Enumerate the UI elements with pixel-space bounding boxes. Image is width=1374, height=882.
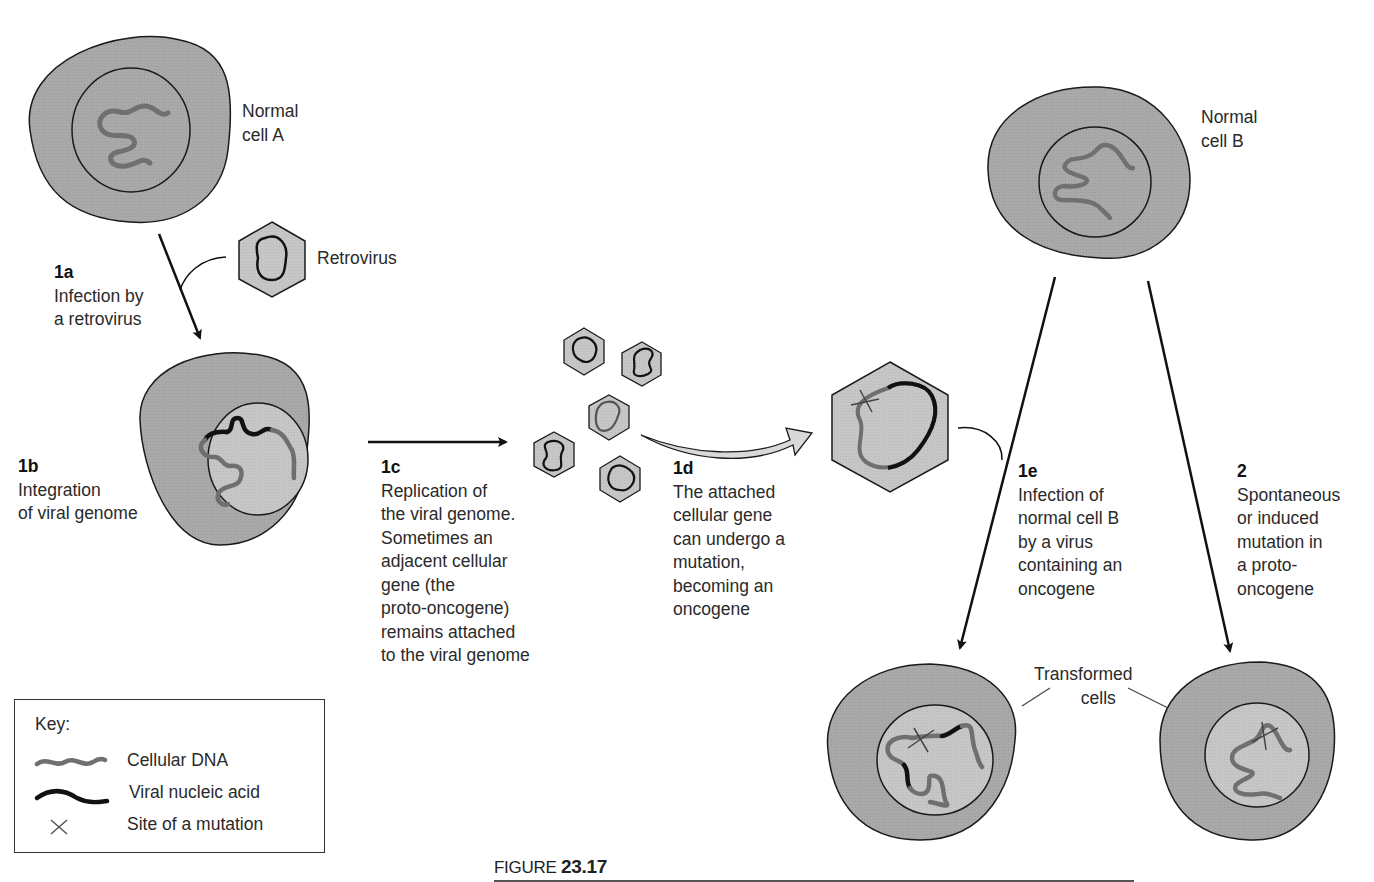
virus-with-oncogene	[832, 362, 948, 492]
transformed-cell-mutation	[1160, 662, 1335, 840]
transformed-cells-label: Transformed cells	[1034, 663, 1133, 710]
normal-cell-a-label: Normal cell A	[242, 100, 298, 147]
step-1b-label: 1bIntegration of viral genome	[18, 455, 138, 526]
step-1d-label: 1dThe attached cellular gene can undergo…	[673, 457, 785, 622]
transformed-cell-viral	[827, 664, 1015, 840]
step-1c-label: 1cReplication of the viral genome. Somet…	[381, 456, 530, 668]
key-item-viral-nucleic-acid: Viral nucleic acid	[15, 782, 324, 806]
virus-copy	[564, 328, 604, 375]
cell-with-integrated-viral-genome	[140, 353, 309, 545]
leader-line-right	[1128, 688, 1168, 708]
retrovirus-connector	[180, 257, 226, 290]
step-1e-label: 1eInfection of normal cell B by a virus …	[1018, 460, 1122, 601]
virus-copy	[622, 342, 661, 386]
arrow-1a	[159, 234, 200, 338]
caption-rule	[494, 880, 1134, 882]
key-title: Key:	[35, 714, 70, 735]
key-legend: Key: Cellular DNA Viral nucleic acid Sit…	[14, 699, 325, 853]
virus-copy	[589, 395, 629, 440]
key-item-mutation-site: Site of a mutation	[15, 814, 324, 838]
key-item-cellular-dna: Cellular DNA	[15, 750, 324, 774]
retrovirus-icon	[239, 222, 305, 297]
black-wavy-line-icon	[33, 782, 113, 808]
replicated-virus-group	[534, 328, 661, 502]
gray-wavy-line-icon	[33, 750, 113, 774]
arrow-2	[1148, 281, 1230, 651]
x-mark-icon	[33, 814, 113, 838]
virus-copy	[600, 456, 640, 502]
step-1a-label: 1aInfection by a retrovirus	[54, 261, 144, 332]
virus-connector	[958, 428, 1002, 460]
normal-cell-b-label: Normal cell B	[1201, 106, 1257, 153]
retrovirus-label: Retrovirus	[317, 247, 397, 271]
step-2-label: 2Spontaneous or induced mutation in a pr…	[1237, 460, 1340, 601]
normal-cell-a	[29, 37, 230, 223]
normal-cell-b	[988, 87, 1190, 258]
figure-caption: FIGURE 23.17	[494, 856, 607, 878]
arrow-1d	[641, 428, 812, 458]
virus-copy	[534, 432, 574, 477]
